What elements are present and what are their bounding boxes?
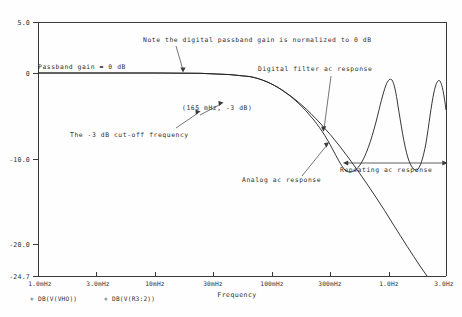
annotation-cutoff-frequency: The -3 dB cut-off frequency [70, 131, 189, 139]
annotation-cutoff-point: (165 mHz, -3 dB) [182, 104, 252, 112]
x-tick-label-30mhz: 30mHz [203, 280, 223, 287]
leader-digital-response [324, 76, 331, 129]
annotation-digital-normalized-note: Note the digital passband gain is normal… [143, 36, 372, 44]
leader-arrowhead-analog-response [324, 142, 329, 147]
y-axis-ticks [33, 22, 38, 276]
leader-cutoff-frequency [176, 113, 198, 128]
legend-label-1: DB(V(VHO)) [38, 295, 77, 302]
x-tick-label-10mhz: 10mHz [145, 280, 165, 287]
y-tick-label-neg20: -20.0 [9, 241, 30, 249]
x-tick-label-300mhz: 300mHz [318, 280, 342, 287]
x-tick-label-1mhz: 1.0mHz [28, 280, 52, 287]
annotation-labels: Passband gain = 0 dB Note the digital pa… [38, 36, 432, 184]
x-axis-ticks [38, 272, 446, 276]
y-tick-label-neg10: -10.0 [9, 156, 30, 164]
annotation-analog-response: Analog ac response [242, 176, 321, 184]
annotation-repeating-response: Repeating ac response [340, 166, 432, 174]
x-tick-label-1hz: 1.0Hz [379, 280, 399, 287]
pspice-plot-window: 5.0 0 -10.0 -20.0 -24.7 1.0mHz 3.0mHz 10… [0, 0, 462, 317]
span-arrowhead-right [442, 161, 447, 166]
x-tick-label-3mhz: 3.0mHz [86, 280, 110, 287]
x-tick-label-3hz: 3.0Hz [434, 280, 454, 287]
y-tick-label-5: 5.0 [17, 19, 30, 27]
plot-axes [38, 22, 446, 276]
curve-digital-ac-response [38, 73, 446, 172]
leader-normalized-note [176, 46, 183, 70]
y-axis-labels: 5.0 0 -10.0 -20.0 -24.7 [9, 19, 30, 281]
x-axis-labels: 1.0mHz 3.0mHz 10mHz 30mHz 100mHz 300mHz … [28, 280, 454, 287]
leader-analog-response [302, 145, 327, 176]
plot-legend: + DB(V(VHO)) + DB(V(R3:2)) [30, 295, 155, 302]
bode-plot-figure: 5.0 0 -10.0 -20.0 -24.7 1.0mHz 3.0mHz 10… [0, 0, 462, 317]
legend-label-2: DB(V(R3:2)) [112, 295, 155, 302]
x-axis-title: Frequency [217, 291, 256, 299]
legend-marker-1: + [30, 295, 34, 302]
y-tick-label-neg24-7: -24.7 [9, 273, 30, 281]
legend-marker-2: + [104, 295, 108, 302]
x-tick-label-100mhz: 100mHz [260, 280, 284, 287]
y-tick-label-0: 0 [26, 70, 30, 78]
leader-arrowhead-normalized-note [180, 67, 185, 72]
annotation-passband-gain: Passband gain = 0 dB [38, 63, 126, 71]
span-arrowhead-left [343, 161, 348, 166]
annotation-digital-filter-response: Digital filter ac response [258, 65, 372, 73]
